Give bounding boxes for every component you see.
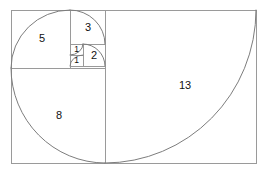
square-3-label: 3 xyxy=(85,21,91,33)
fibonacci-spiral-canvas: 11235813 xyxy=(0,0,267,171)
outer-golden-rectangle xyxy=(12,11,257,164)
square-8-label: 8 xyxy=(56,109,62,121)
square-5-label: 5 xyxy=(39,32,45,44)
square-2-label: 2 xyxy=(91,49,97,61)
fibonacci-spiral-diagram: 11235813 xyxy=(0,0,267,171)
spiral-arcs-group xyxy=(11,10,256,163)
square-labels-group: 11235813 xyxy=(39,21,191,121)
squares-group xyxy=(12,11,257,164)
square-13-label: 13 xyxy=(179,79,191,91)
square-1-lower-label: 1 xyxy=(74,55,79,65)
square-1-upper-label: 1 xyxy=(74,44,79,54)
